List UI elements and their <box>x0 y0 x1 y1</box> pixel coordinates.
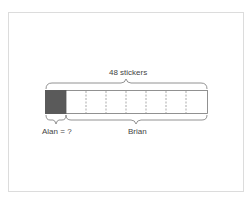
alan-label: Alan = ? <box>42 127 72 136</box>
tape-bar <box>46 91 208 114</box>
tape-diagram <box>0 0 251 200</box>
alan-segment <box>46 91 67 114</box>
total-label: 48 stickers <box>109 68 147 77</box>
brian-label: Brian <box>128 127 147 136</box>
alan-brace <box>46 115 66 124</box>
brian-brace <box>66 115 207 124</box>
total-brace <box>46 79 207 89</box>
